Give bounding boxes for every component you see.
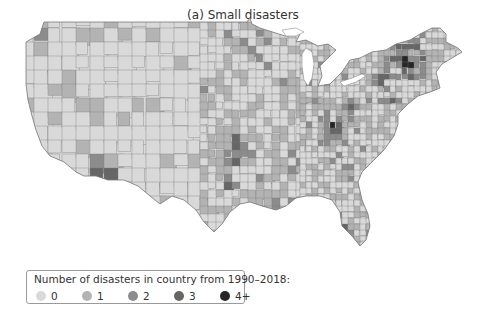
county-cell [360,32,366,38]
county-cell [306,188,311,194]
county-cell [408,134,416,140]
choropleth-map [0,0,486,270]
county-cell [444,206,449,211]
county-cell [408,188,414,194]
county-cell [396,224,401,229]
county-cell [372,68,378,74]
county-cell [426,140,432,148]
county-cell [336,20,341,26]
county-cell [462,44,468,50]
county-cell [372,38,378,45]
county-cell [216,62,225,69]
county-cell [280,214,289,222]
county-cell [342,188,348,194]
county-cell [462,26,467,34]
county-cell [414,122,420,128]
county-cell [360,128,365,133]
county-cell [408,14,414,21]
county-cell [468,128,475,135]
county-cell [318,158,325,163]
county-cell [444,242,450,249]
county-cell [444,188,449,194]
county-cell [354,230,359,236]
county-cell [342,116,347,121]
county-cell [438,110,443,118]
county-cell [312,20,318,28]
county-cell [336,14,344,22]
county-cell [414,188,421,195]
county-cell [438,194,444,200]
county-cell [468,200,476,208]
county-cell [306,242,312,247]
county-cell [468,110,473,117]
county-cell [390,146,397,151]
county-cell [280,78,287,87]
county-cell [90,70,105,86]
county-cell [336,236,344,241]
county-cell [264,190,271,198]
county-cell [288,126,294,135]
county-cell [324,230,332,236]
county-cell [462,176,470,182]
county-cell [324,206,332,214]
county-cell [438,248,444,253]
county-cell [462,194,470,202]
county-cell [444,92,452,100]
county-cell [438,224,445,229]
county-cell [438,188,445,195]
county-cell [384,218,389,223]
county-cell [232,222,241,233]
county-cell [264,14,270,25]
county-cell [20,196,36,213]
county-cell [378,212,385,219]
county-cell [390,164,395,171]
county-cell [402,32,407,40]
county-cell [438,68,445,76]
county-cell [318,26,324,33]
legend-label: 3 [189,290,196,302]
county-cell [462,236,467,244]
county-cell [330,14,338,20]
county-cell [432,182,439,190]
county-cell [188,238,204,255]
county-cell [420,104,427,111]
county-cell [248,86,257,94]
county-cell [462,158,469,164]
county-cell [402,26,408,33]
county-cell [444,170,449,175]
county-cell [324,200,329,207]
county-cell [280,174,287,183]
county-cell [324,38,329,43]
county-cell [272,22,282,32]
county-cell [34,238,53,256]
county-cell [402,14,408,20]
county-cell [438,98,446,106]
county-cell [384,122,390,127]
county-cell [336,26,342,31]
county-cell [462,128,469,134]
county-cell [456,92,463,97]
county-cell [456,152,463,157]
county-cell [366,182,371,187]
county-cell [330,218,336,224]
county-cell [324,26,332,34]
county-cell [342,56,350,62]
county-cell [348,140,353,145]
county-cell [200,222,209,232]
county-cell [378,14,384,19]
county-cell [468,158,473,163]
county-cell [280,230,287,239]
county-cell [408,26,415,33]
county-cell [438,200,446,207]
county-cell [468,14,474,22]
county-cell [240,78,247,86]
county-cell [396,182,402,190]
county-cell [342,242,348,249]
county-cell [348,92,353,99]
county-cell [240,166,248,173]
county-cell [384,188,390,196]
county-cell [456,194,463,200]
county-cell [160,210,177,226]
county-cell [232,190,239,197]
county-cell [462,56,469,62]
